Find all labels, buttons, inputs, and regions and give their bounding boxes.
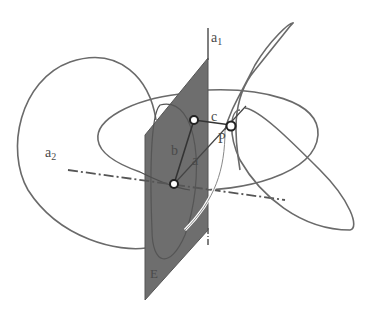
label-b: b bbox=[171, 143, 178, 158]
label-a1: a1 bbox=[211, 30, 222, 47]
point-upper bbox=[190, 116, 198, 124]
geometry-diagram: a1 a2 b a c P E bbox=[0, 0, 374, 321]
label-P: P bbox=[218, 131, 226, 146]
label-a2: a2 bbox=[45, 145, 56, 162]
ellipse-back bbox=[190, 90, 318, 190]
label-E: E bbox=[150, 266, 158, 281]
point-P bbox=[227, 122, 236, 131]
label-a: a bbox=[192, 153, 199, 168]
point-lower bbox=[170, 180, 178, 188]
label-c: c bbox=[211, 109, 217, 124]
left-loop-curve bbox=[17, 58, 156, 249]
